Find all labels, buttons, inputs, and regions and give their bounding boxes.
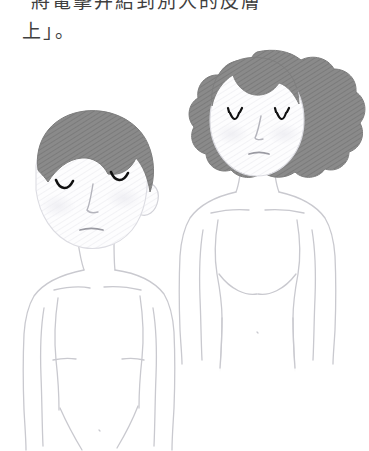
body-text-line-1: 將電擊并結到別人的皮膚 [31,0,262,13]
body-text-line-2: 上」。 [22,16,76,43]
left-figure-blush-right [106,186,142,210]
left-figure [23,111,175,451]
left-figure-blush-left [40,194,76,218]
left-figure-torso [23,238,175,450]
right-figure-blush-right [267,123,301,145]
scanned-page: 將電擊并結到別人的皮膚 上」。 [0,0,369,451]
illustration [0,42,369,451]
left-figure-lower-torso [26,416,172,451]
right-figure [179,50,365,372]
right-figure-blush-left [215,123,249,145]
right-figure-torso [179,154,336,368]
right-figure-lower-torso [220,318,295,372]
